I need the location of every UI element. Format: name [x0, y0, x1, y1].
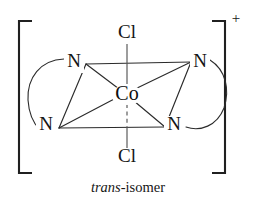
- bond-co-n-lower-right: [134, 101, 165, 127]
- ligand-label-cl-bottom: Cl: [118, 145, 136, 166]
- bond-co-n-upper-right: [133, 62, 191, 90]
- ligand-label-n-lower-right: N: [167, 113, 181, 134]
- structure-drawing: Cl Cl Co N N N N +: [0, 0, 256, 205]
- ligand-label-n-upper-left: N: [67, 50, 81, 71]
- caption-italic-trans: trans: [91, 179, 121, 195]
- left-bracket: [19, 21, 32, 173]
- caption-roman-isomer: -isomer: [121, 179, 165, 195]
- figure-caption: trans-isomer: [0, 180, 256, 195]
- charge-label: +: [232, 10, 240, 26]
- complex-ion-figure: Cl Cl Co N N N N + trans-isomer: [0, 0, 256, 205]
- metal-label-co: Co: [115, 82, 138, 104]
- ligand-label-n-upper-right: N: [193, 50, 207, 71]
- edge-upper-left-to-upper-right: [86, 62, 191, 64]
- ligand-label-cl-top: Cl: [118, 21, 136, 42]
- right-bracket: [212, 21, 225, 173]
- bond-co-n-lower-left: [59, 97, 118, 128]
- edge-lower-left-to-upper-left: [59, 64, 86, 128]
- ligand-label-n-lower-left: N: [39, 113, 53, 134]
- edge-lower-right-to-lower-left: [59, 127, 165, 128]
- atom-label-group: Cl Cl Co N N N N: [36, 21, 210, 168]
